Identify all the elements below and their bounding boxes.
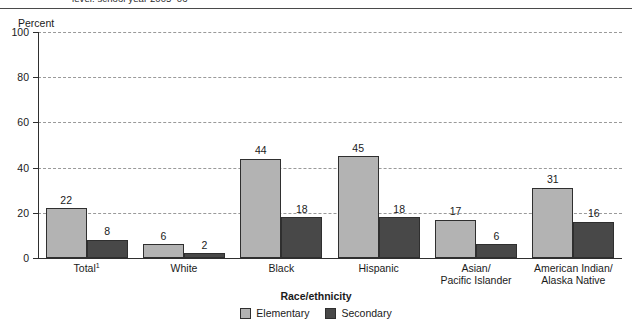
x-axis-category-line: American Indian/ [498, 263, 632, 275]
legend-item-secondary: Secondary [325, 307, 391, 319]
bar-value-label: 8 [87, 226, 128, 237]
bar-secondary [573, 222, 614, 258]
bar-secondary [476, 244, 517, 258]
y-axis-tick [33, 168, 39, 169]
bar-secondary [87, 240, 128, 258]
bar-group: 4518 [338, 32, 420, 258]
bar-group: 4418 [240, 32, 322, 258]
x-axis-category-line: Alaska Native [498, 275, 632, 287]
y-axis-tick [33, 258, 39, 259]
bar-group: 176 [435, 32, 517, 258]
bar-secondary [379, 217, 420, 258]
y-axis-tick [33, 77, 39, 78]
bar-value-label: 17 [435, 206, 476, 217]
bar-chart: Percent 020406080100 2286244184518176311… [0, 9, 632, 318]
bar-value-label: 18 [281, 204, 322, 215]
bar-value-label: 6 [476, 231, 517, 242]
y-axis-tick-label: 100 [3, 26, 29, 38]
bar-value-label: 2 [184, 240, 225, 251]
bar-value-label: 18 [379, 204, 420, 215]
chart-title: level: school year 2005–06 [72, 0, 188, 4]
bar-elementary [46, 208, 87, 258]
x-axis-title: Race/ethnicity [0, 290, 632, 302]
y-axis-tick [33, 32, 39, 33]
legend-swatch-secondary [325, 308, 336, 319]
bar-group: 228 [46, 32, 128, 258]
y-axis-tick [33, 213, 39, 214]
bar-elementary [240, 159, 281, 258]
bar-secondary [184, 253, 225, 258]
x-axis-category-label: American Indian/Alaska Native [498, 263, 632, 286]
bar-elementary [435, 220, 476, 258]
bar-value-label: 22 [46, 195, 87, 206]
legend-swatch-elementary [240, 308, 251, 319]
y-axis-tick-label: 40 [3, 162, 29, 174]
legend-label-secondary: Secondary [341, 307, 391, 319]
bar-value-label: 44 [240, 145, 281, 156]
y-axis-tick-label: 60 [3, 116, 29, 128]
chart-legend: Elementary Secondary [0, 307, 632, 319]
y-axis-tick-label: 20 [3, 207, 29, 219]
y-axis-tick [33, 122, 39, 123]
plot-area: 22862441845181763116 [38, 32, 622, 258]
bar-value-label: 6 [143, 231, 184, 242]
bar-value-label: 45 [338, 143, 379, 154]
bar-secondary [281, 217, 322, 258]
legend-label-elementary: Elementary [256, 307, 309, 319]
bar-group: 62 [143, 32, 225, 258]
y-axis-tick-labels: 020406080100 [0, 32, 29, 259]
bar-group: 3116 [532, 32, 614, 258]
bar-elementary [338, 156, 379, 258]
bar-elementary [143, 244, 184, 258]
legend-item-elementary: Elementary [240, 307, 309, 319]
bar-elementary [532, 188, 573, 258]
y-axis-tick-label: 80 [3, 71, 29, 83]
x-axis-line [38, 258, 622, 259]
bar-value-label: 31 [532, 174, 573, 185]
bar-value-label: 16 [573, 208, 614, 219]
